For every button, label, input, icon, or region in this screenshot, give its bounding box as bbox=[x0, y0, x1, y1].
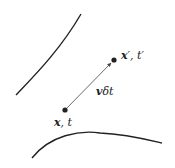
start-point-dot bbox=[62, 107, 67, 112]
lower-boundary-curve bbox=[32, 132, 162, 158]
vector-label: vδt bbox=[96, 85, 114, 98]
upper-boundary-curve bbox=[16, 14, 81, 95]
start-point-label: x, t bbox=[53, 116, 73, 129]
end-point-dot bbox=[111, 57, 116, 62]
flow-diagram: x′, t′ vδt x, t bbox=[0, 0, 175, 168]
end-point-label: x′, t′ bbox=[120, 49, 144, 62]
